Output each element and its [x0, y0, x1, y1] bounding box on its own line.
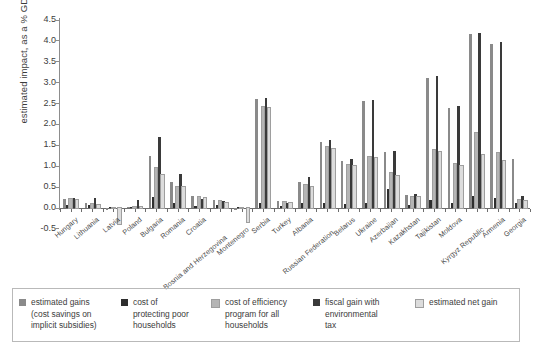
x-axis-tick-mark: [71, 209, 72, 213]
bar: [353, 166, 356, 208]
bar: [118, 208, 121, 225]
x-axis-tick-mark: [145, 209, 146, 213]
bar-group: [384, 20, 399, 209]
legend-color-swatch: [415, 299, 424, 308]
x-axis-tick-mark: [477, 209, 478, 213]
x-axis-tick-mark: [455, 209, 456, 213]
y-axis-tick-mark: [55, 124, 59, 125]
x-axis-tick-mark: [284, 209, 285, 213]
bar-group: [426, 20, 441, 209]
y-axis-tick-label: -0.5: [40, 224, 56, 233]
bar-group: [512, 20, 527, 209]
bar-group: [298, 20, 313, 209]
bar: [247, 208, 250, 223]
x-axis-tick-mark: [92, 209, 93, 213]
x-axis-tick-mark: [423, 209, 424, 213]
legend-item[interactable]: estimated gains(cost savings onimplicit …: [19, 297, 121, 332]
bar-group: [106, 20, 121, 209]
bar: [225, 203, 228, 208]
bar: [503, 161, 506, 208]
bar: [255, 99, 258, 208]
x-axis-tick-mark: [60, 209, 61, 213]
x-axis-tick-mark: [391, 209, 392, 213]
legend-color-swatch: [313, 299, 320, 306]
x-axis-tick-mark: [199, 209, 200, 213]
bar-group: [469, 20, 484, 209]
bar-group: [149, 20, 164, 209]
bar: [268, 108, 271, 207]
bar: [469, 34, 472, 207]
bar-group: [213, 20, 228, 209]
bar-group: [85, 20, 100, 209]
bar: [332, 149, 335, 207]
bar-group: [127, 20, 142, 209]
bar: [289, 203, 292, 208]
chart-page: estimated impact, as a % GDP 4.54.03.53.…: [0, 0, 537, 354]
bar: [341, 161, 344, 208]
bar-group: [277, 20, 292, 209]
x-axis-tick-mark: [445, 209, 446, 213]
y-axis-tick-mark: [55, 82, 59, 83]
bar: [106, 208, 109, 210]
x-axis-tick-mark: [327, 209, 328, 213]
bar-group: [320, 20, 335, 209]
bar-group: [234, 20, 249, 209]
bar-group: [362, 20, 377, 209]
y-axis-tick-mark: [55, 145, 59, 146]
x-axis-tick-mark: [252, 209, 253, 213]
x-axis-tick-mark: [316, 209, 317, 213]
bar-group: [490, 20, 505, 209]
bar: [97, 205, 100, 207]
x-axis-tick-mark: [231, 209, 232, 213]
x-axis-tick-mark: [135, 209, 136, 213]
y-axis-tick-mark: [55, 61, 59, 62]
legend-item[interactable]: cost of efficiencyprogram for allhouseho…: [211, 297, 313, 332]
legend-item[interactable]: cost ofprotecting poorhouseholds: [121, 297, 211, 332]
y-axis-tick-mark: [55, 166, 59, 167]
legend-label: cost ofprotecting poorhouseholds: [133, 297, 189, 332]
bar: [460, 166, 463, 208]
x-axis-tick-mark: [274, 209, 275, 213]
x-axis-tick-mark: [380, 209, 381, 213]
legend-item[interactable]: estimated net gain: [415, 297, 513, 309]
x-axis-tick-mark: [156, 209, 157, 213]
y-axis-tick-mark: [55, 20, 59, 21]
bar: [448, 108, 451, 207]
x-axis-tick-mark: [188, 209, 189, 213]
x-axis-tick-mark: [306, 209, 307, 213]
x-axis-tick-mark: [178, 209, 179, 213]
chart-legend: estimated gains(cost savings onimplicit …: [12, 288, 520, 342]
x-axis-tick-mark: [498, 209, 499, 213]
bar-group: [341, 20, 356, 209]
bar: [524, 201, 527, 207]
bar: [204, 198, 207, 207]
bar: [182, 187, 185, 208]
x-axis-tick-mark: [402, 209, 403, 213]
bar: [417, 197, 420, 207]
legend-label: cost of efficiencyprogram for allhouseho…: [225, 297, 287, 332]
bar: [375, 158, 378, 207]
y-axis-tick-mark: [55, 103, 59, 104]
x-axis-tick-mark: [103, 209, 104, 213]
x-axis-tick-mark: [519, 209, 520, 213]
bar-group: [405, 20, 420, 209]
x-axis-tick-mark: [413, 209, 414, 213]
x-axis-tick-mark: [295, 209, 296, 213]
bar: [439, 152, 442, 207]
legend-label: fiscal gain withenvironmentaltax: [325, 297, 379, 332]
bar-group: [63, 20, 78, 209]
legend-label: estimated gains(cost savings onimplicit …: [31, 297, 97, 332]
legend-item[interactable]: fiscal gain withenvironmentaltax: [313, 297, 415, 332]
bar: [161, 175, 164, 208]
x-axis-tick-mark: [338, 209, 339, 213]
x-axis-tick-mark: [167, 209, 168, 213]
x-axis-tick-mark: [210, 209, 211, 213]
x-axis-tick-mark: [124, 209, 125, 213]
x-axis-tick-mark: [359, 209, 360, 213]
bar-group: [191, 20, 206, 209]
x-axis-tick-mark: [434, 209, 435, 213]
x-axis-tick-mark: [530, 209, 531, 213]
legend-color-swatch: [19, 299, 26, 306]
y-axis-tick-mark: [55, 187, 59, 188]
bar: [396, 176, 399, 207]
